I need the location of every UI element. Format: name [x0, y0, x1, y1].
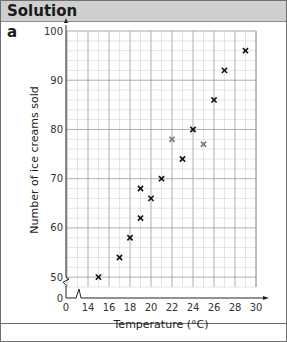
scatter-chart: 014161820222426283005060708090100 Temper…: [0, 0, 287, 342]
x-axis-arrow-icon: [263, 296, 269, 300]
tick-labels: 014161820222426283005060708090100: [44, 26, 262, 314]
y-tick-label: 70: [50, 173, 63, 184]
x-tick-label: 20: [145, 302, 158, 313]
y-tick-label: 50: [50, 272, 63, 283]
x-tick-label: 16: [103, 302, 116, 313]
y-tick-label: 80: [50, 124, 63, 135]
x-tick-label: 18: [124, 302, 137, 313]
y-axis-arrow-icon: [64, 18, 68, 23]
x-axis-label: Temperature (°C): [113, 318, 209, 331]
y-tick-label: 100: [44, 26, 63, 37]
y-axis: [63, 25, 69, 298]
y-tick-label: 90: [50, 75, 63, 86]
x-tick-label: 14: [82, 302, 95, 313]
y-axis-label: Number of ice creams sold: [28, 86, 41, 233]
y-tick-label: 0: [57, 293, 63, 304]
x-tick-label: 26: [208, 302, 221, 313]
x-tick-label: 24: [187, 302, 200, 313]
x-tick-label: 30: [250, 302, 263, 313]
x-tick-label: 22: [166, 302, 179, 313]
y-tick-label: 60: [50, 222, 63, 233]
x-tick-label: 0: [63, 302, 69, 313]
x-tick-label: 28: [229, 302, 242, 313]
x-axis: [66, 289, 263, 298]
grid: [67, 31, 256, 287]
